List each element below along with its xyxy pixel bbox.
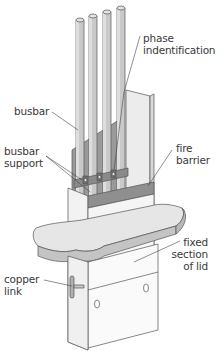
label-line: link [4,285,39,297]
label-line: section [166,248,208,260]
label-phase-identification: phase indentification [143,32,215,56]
label-line: copper [4,273,39,285]
label-line: phase [143,32,215,44]
copper-link [70,276,74,298]
label-line: barrier [176,154,210,166]
screw-hole [95,300,100,308]
label-fire-barrier: fire barrier [176,142,210,166]
label-line: of lid [166,260,208,272]
fixed-lid-section [88,244,158,348]
label-line: fire [176,142,210,154]
label-line: busbar [14,105,49,117]
label-line: busbar [4,145,43,157]
lower-left-side [68,256,88,350]
label-copper-link: copper link [4,273,39,297]
label-line: indentification [143,44,215,56]
label-line: fixed [166,236,208,248]
screw-hole [144,284,149,292]
label-busbar: busbar [14,105,49,117]
busbar-diagram: phase indentification busbar busbar supp… [0,0,224,351]
label-busbar-support: busbar support [4,145,43,169]
label-fixed-section-of-lid: fixed section of lid [166,236,208,272]
label-line: support [4,157,43,169]
